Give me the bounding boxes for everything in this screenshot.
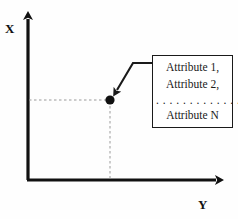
data-point[interactable]	[105, 95, 114, 104]
vertical-axis-label: X	[5, 22, 14, 35]
attribute-line-2: Attribute 2,	[156, 76, 229, 93]
attribute-ellipsis: . . . . . . . . . . . . .	[156, 93, 229, 107]
attribute-line-1: Attribute 1,	[156, 59, 229, 76]
horizontal-axis-label: Y	[198, 198, 207, 211]
attribute-line-n: Attribute N	[156, 107, 229, 124]
leader-arrow	[117, 63, 153, 90]
attribute-callout-box: Attribute 1, Attribute 2, . . . . . . . …	[152, 55, 233, 128]
diagram-canvas: X Y Attribute 1, Attribute 2, . . . . . …	[0, 0, 238, 219]
